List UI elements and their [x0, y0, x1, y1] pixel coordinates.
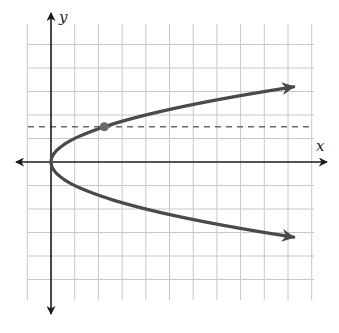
parabola-lower-branch	[51, 162, 294, 237]
x-axis-label: x	[316, 137, 325, 155]
parabola-upper-branch	[51, 87, 294, 162]
intersection-point	[100, 122, 109, 131]
parabola-chart: y x	[0, 0, 339, 333]
y-axis-label: y	[58, 8, 68, 26]
